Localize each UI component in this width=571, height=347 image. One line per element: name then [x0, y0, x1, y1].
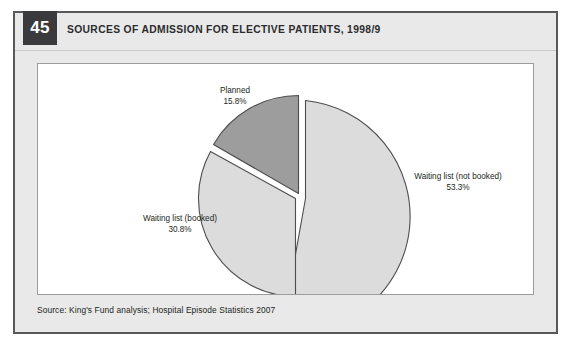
pie-label-planned-value: 15.8% [223, 97, 246, 106]
pie-slice-waiting-list-not-booked [282, 101, 411, 295]
figure-header-band: 45 SOURCES OF ADMISSION FOR ELECTIVE PAT… [15, 13, 556, 51]
pie-label-booked-value: 30.8% [168, 225, 191, 234]
pie-label-waiting-list-not-booked: Waiting list (not booked) 53.3% [383, 172, 533, 194]
pie-label-planned: Planned 15.8% [190, 86, 280, 108]
pie-label-planned-name: Planned [220, 86, 250, 95]
pie-label-booked-name: Waiting list (booked) [143, 214, 217, 223]
chart-plot-area: Planned 15.8% Waiting list (not booked) … [37, 63, 534, 295]
figure-frame: 45 SOURCES OF ADMISSION FOR ELECTIVE PAT… [13, 11, 558, 334]
pie-label-not-booked-name: Waiting list (not booked) [414, 172, 502, 181]
figure-number-badge: 45 [23, 11, 57, 45]
figure-source-note: Source: King's Fund analysis; Hospital E… [37, 305, 275, 315]
pie-label-waiting-list-booked: Waiting list (booked) 30.8% [110, 214, 250, 236]
figure-title: SOURCES OF ADMISSION FOR ELECTIVE PATIEN… [67, 24, 381, 35]
pie-label-not-booked-value: 53.3% [446, 183, 469, 192]
